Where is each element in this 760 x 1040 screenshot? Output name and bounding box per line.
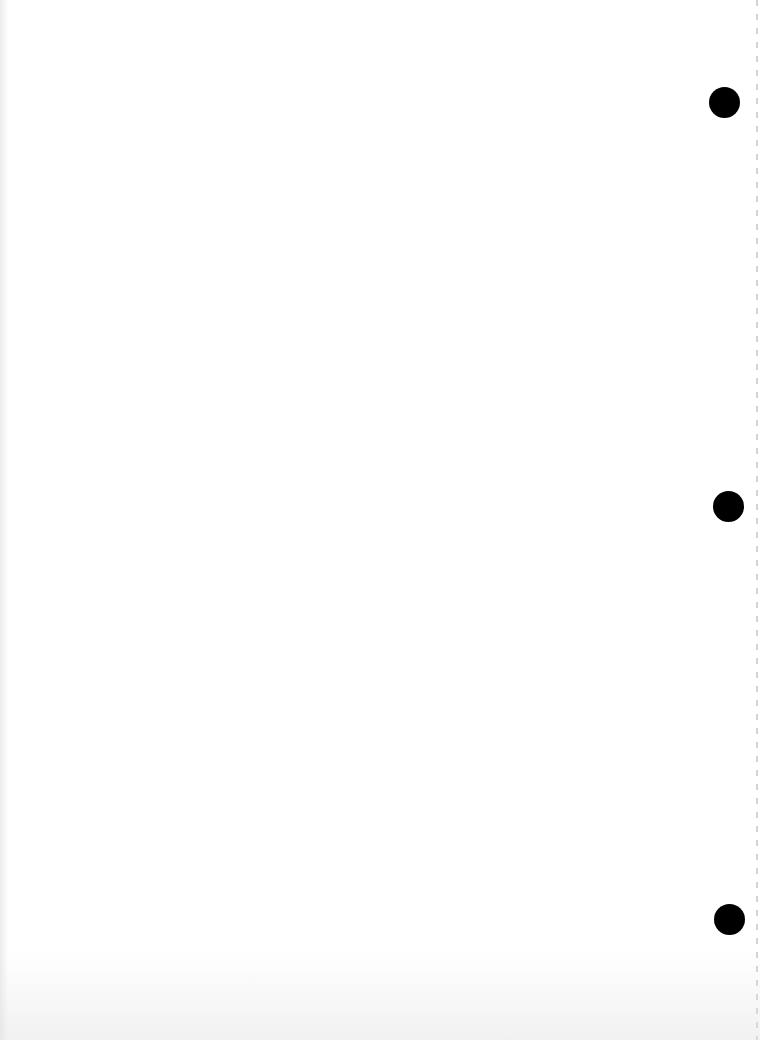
- right-scan-edge: [756, 0, 758, 1040]
- scanned-page: [0, 0, 760, 1040]
- bottom-scan-grain: [0, 950, 760, 1040]
- punch-hole-middle: [713, 491, 744, 522]
- left-scan-edge: [0, 0, 8, 1040]
- punch-hole-top: [709, 87, 740, 118]
- punch-hole-bottom: [714, 904, 745, 935]
